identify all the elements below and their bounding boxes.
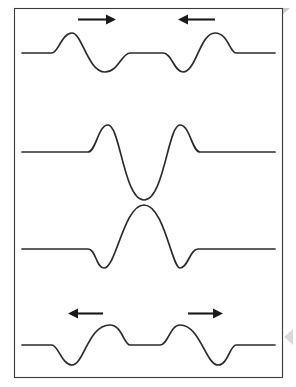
figure-canvas [0, 0, 296, 387]
corner-fold-icon [283, 8, 290, 14]
wave-superposition-figure [0, 0, 296, 387]
figure-border [15, 9, 283, 378]
page-edge-triangle-icon [284, 329, 293, 345]
